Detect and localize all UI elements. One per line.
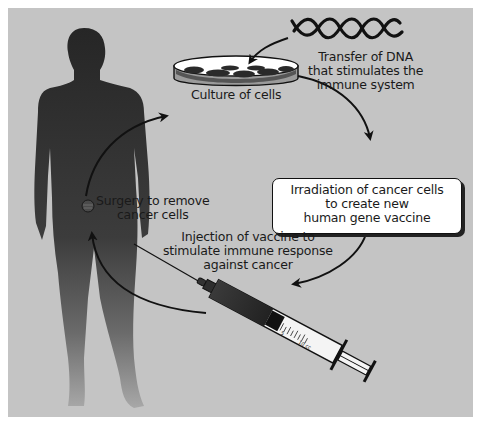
injection-label-line-3: against cancer [163,258,333,272]
dna-transfer-label: Transfer of DNA that stimulates the immu… [308,50,423,92]
surgery-label-line-1: Surgery to remove [96,194,210,208]
dna-label-line-3: immune system [308,78,423,92]
tumor-marker-icon [82,200,94,212]
dna-label-line-2: that stimulates the [308,64,423,78]
injection-label-line-1: Injection of vaccine to [163,230,333,244]
irradiation-box: Irradiation of cancer cells to create ne… [272,178,462,234]
injection-label: Injection of vaccine to stimulate immune… [163,230,333,272]
dna-label-line-1: Transfer of DNA [308,50,423,64]
irradiation-label-line-2: to create new [273,197,461,211]
diagram-frame: 5 10 cc Transfer of DNA that stimulates … [8,8,473,417]
surgery-label-line-2: cancer cells [96,208,210,222]
irradiation-label-line-1: Irradiation of cancer cells [273,179,461,197]
syringe-icon: 5 10 cc [190,265,379,387]
surgery-label: Surgery to remove cancer cells [96,194,210,222]
culture-label: Culture of cells [191,88,281,102]
irradiation-label-line-3: human gene vaccine [273,211,461,225]
dna-helix-icon [292,19,402,38]
petri-dish-icon [174,56,298,86]
injection-label-line-2: stimulate immune response [163,244,333,258]
